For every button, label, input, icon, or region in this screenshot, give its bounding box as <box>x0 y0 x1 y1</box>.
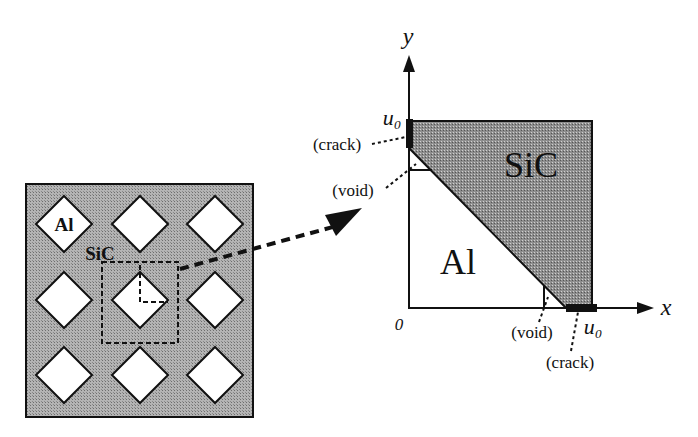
crack-bar-x <box>566 304 597 312</box>
y-axis-arrow-icon <box>403 55 415 72</box>
al-region-label: Al <box>440 242 476 282</box>
origin-label: 0 <box>395 315 404 334</box>
y-axis-label: y <box>401 23 414 49</box>
void-label-top: (void) <box>332 181 374 200</box>
composite-microstructure: Al SiC <box>26 184 253 417</box>
crack-label-top: (crack) <box>313 135 361 154</box>
crack-label-bottom: (crack) <box>546 353 594 372</box>
sic-label-left: SiC <box>85 243 115 264</box>
leader-crack-bottom <box>571 312 578 351</box>
al-label-left: Al <box>55 214 74 235</box>
leader-crack-top <box>372 137 406 144</box>
sic-region-label: SiC <box>504 145 558 185</box>
model-geometry: y x 0 u₀ u₀ SiC Al (crack) (void) (void)… <box>313 23 672 372</box>
crack-bar-y <box>406 119 413 148</box>
u0-label-x: u₀ <box>584 314 603 339</box>
x-axis-label: x <box>660 294 672 320</box>
diagram-canvas: Al SiC y x 0 u₀ u₀ SiC Al (crack) <box>0 0 698 437</box>
void-label-bottom: (void) <box>511 323 553 342</box>
arrow-head-icon <box>325 208 362 236</box>
x-axis-arrow-icon <box>637 302 654 314</box>
u0-label-y: u₀ <box>383 105 402 130</box>
